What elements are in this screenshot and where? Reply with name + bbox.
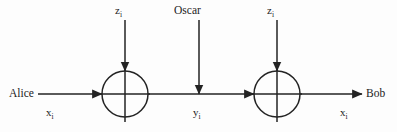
vertical-input-paths bbox=[125, 20, 277, 94]
sender-label: Alice bbox=[9, 88, 34, 100]
ciphertext-subscript: i bbox=[199, 112, 201, 121]
keystream-right-label: zi bbox=[267, 5, 274, 16]
stream-cipher-diagram: zi Oscar zi Alice xi yi xi Bob bbox=[0, 0, 397, 132]
plaintext-out-label: xi bbox=[340, 107, 348, 118]
keystream-left-subscript: i bbox=[120, 10, 122, 19]
ciphertext-label: yi bbox=[193, 107, 201, 118]
plaintext-in-label: xi bbox=[46, 107, 54, 118]
xor-encrypt-node bbox=[100, 68, 150, 122]
plaintext-in-subscript: i bbox=[52, 112, 54, 121]
xor-decrypt-node bbox=[252, 68, 302, 122]
receiver-label: Bob bbox=[366, 88, 385, 100]
keystream-right-subscript: i bbox=[272, 10, 274, 19]
keystream-left-label: zi bbox=[115, 5, 122, 16]
plaintext-out-subscript: i bbox=[346, 112, 348, 121]
eavesdropper-label: Oscar bbox=[174, 5, 201, 17]
